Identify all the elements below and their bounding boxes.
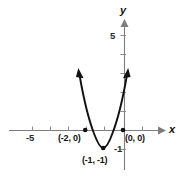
x-axis-arrowhead — [158, 127, 166, 135]
point-label-root-right: (0, 0) — [125, 134, 145, 143]
y-axis-label: y — [120, 5, 126, 16]
y-tick-label-minus1: -1 — [114, 144, 122, 154]
curve-left-arrowhead — [76, 68, 84, 78]
y-axis-arrowhead — [121, 19, 129, 27]
y-tick-label-5: 5 — [110, 31, 115, 41]
x-axis-label: x — [169, 124, 175, 135]
parabola-curve — [80, 77, 127, 149]
x-tick-label-minus5: -5 — [26, 133, 34, 143]
graph-canvas — [0, 0, 179, 177]
point-dot-vertex — [101, 146, 106, 151]
point-label-root-left: (-2, 0) — [58, 134, 81, 143]
point-dot-root-right — [121, 128, 126, 133]
point-label-vertex: (-1, -1) — [82, 156, 107, 165]
point-dot-root-left — [83, 128, 88, 133]
parabola-graph-figure: y x -5 5 -1 (-2, 0) (0, 0) (-1, -1) — [0, 0, 179, 177]
